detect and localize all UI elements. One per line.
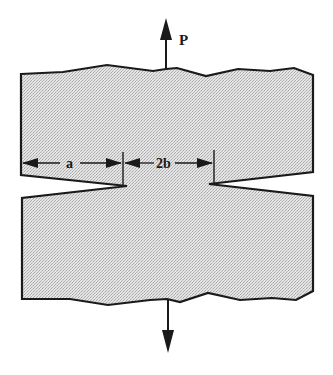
notched-plate-diagram: P a 2b: [0, 0, 333, 375]
notch-depth-label: a: [66, 156, 73, 171]
load-arrow-up: [160, 18, 172, 69]
plate-body: [21, 65, 313, 305]
load-label: P: [179, 32, 188, 48]
ligament-width-label: 2b: [156, 156, 171, 171]
arrowhead-down-icon: [162, 330, 174, 353]
load-arrow-down: [162, 300, 174, 353]
arrowhead-up-icon: [160, 18, 172, 40]
